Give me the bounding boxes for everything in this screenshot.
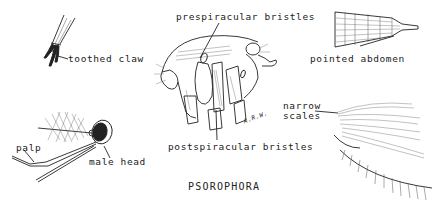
label-palp: palp [16, 143, 41, 153]
thorax-illustration [154, 23, 277, 140]
label-toothed-claw: toothed claw [68, 54, 144, 64]
label-pointed-abdomen: pointed abdomen [310, 54, 405, 64]
pointed-abdomen-illustration [335, 12, 418, 47]
label-postspiracular-bristles: postspiracular bristles [168, 142, 313, 152]
figure-title: PSOROPHORA [188, 182, 260, 192]
label-male-head: male head [89, 157, 146, 167]
wing-scales-illustration [315, 103, 432, 200]
illustrations [0, 0, 435, 205]
psorophora-diagram: toothed claw prespiracular bristles post… [0, 0, 435, 205]
label-prespiracular-bristles: prespiracular bristles [176, 12, 315, 22]
label-scales: scales [283, 111, 321, 121]
